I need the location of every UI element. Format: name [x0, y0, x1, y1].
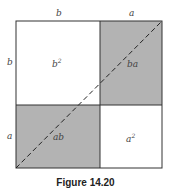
region-label-ab: ab [53, 133, 64, 142]
a-exponent: 2 [131, 132, 135, 139]
region-label-b-squared: b2 [52, 58, 62, 69]
top-label-b: b [56, 9, 62, 18]
top-label-a: a [129, 9, 134, 18]
b-exponent: 2 [58, 57, 62, 64]
side-label-b: b [7, 58, 13, 67]
region-label-ba: ba [127, 60, 138, 69]
figure-caption: Figure 14.20 [0, 177, 171, 188]
square-diagram [0, 0, 171, 191]
side-label-a: a [7, 132, 12, 141]
region-label-a-squared: a2 [126, 133, 135, 144]
